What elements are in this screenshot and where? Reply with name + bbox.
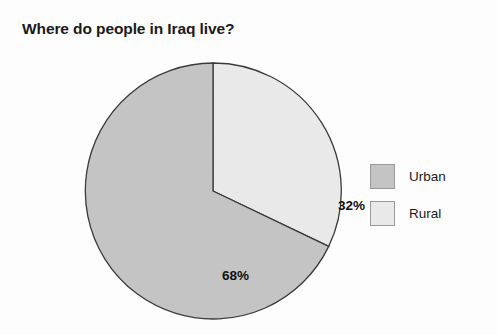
legend-swatch-rural: [370, 201, 395, 226]
legend-label-urban: Urban: [409, 169, 446, 184]
pie-chart-plot-area: 32% 68%: [84, 62, 342, 320]
page-title: Where do people in Iraq live?: [22, 20, 234, 38]
legend-swatch-urban: [370, 164, 395, 189]
legend-item-rural[interactable]: Rural: [370, 200, 446, 226]
pie-slice-label-rural: 32%: [338, 198, 365, 213]
pie-slice-label-urban: 68%: [222, 268, 249, 283]
pie-chart-figure: Where do people in Iraq live? 32% 68% Ur…: [0, 0, 497, 335]
pie-chart-svg: [84, 62, 342, 320]
chart-legend: Urban Rural: [370, 163, 446, 226]
legend-item-urban[interactable]: Urban: [370, 163, 446, 189]
legend-label-rural: Rural: [409, 206, 441, 221]
